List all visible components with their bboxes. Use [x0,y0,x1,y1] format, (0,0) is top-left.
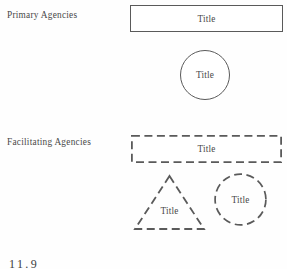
shape-facilitating-triangle-title: Title [133,206,206,216]
dashed-rectangle-outline [131,135,282,163]
shape-facilitating-rectangle: Title [131,135,282,163]
shape-primary-rectangle: Title [130,5,283,32]
shape-primary-rectangle-title: Title [197,14,215,24]
shape-primary-circle: Title [180,50,230,100]
row-label-primary-agencies: Primary Agencies [7,10,77,20]
dashed-triangle-outline [133,174,206,231]
shape-facilitating-circle: Title [214,173,267,226]
shape-primary-circle-title: Title [196,70,214,80]
shape-facilitating-triangle: Title [133,174,206,231]
shape-facilitating-circle-title: Title [231,195,249,205]
figure-caption-number: 11.9 [9,257,39,269]
figure-canvas: Primary Agencies Title Title Facilitatin… [0,0,287,269]
row-label-facilitating-agencies: Facilitating Agencies [7,137,91,147]
